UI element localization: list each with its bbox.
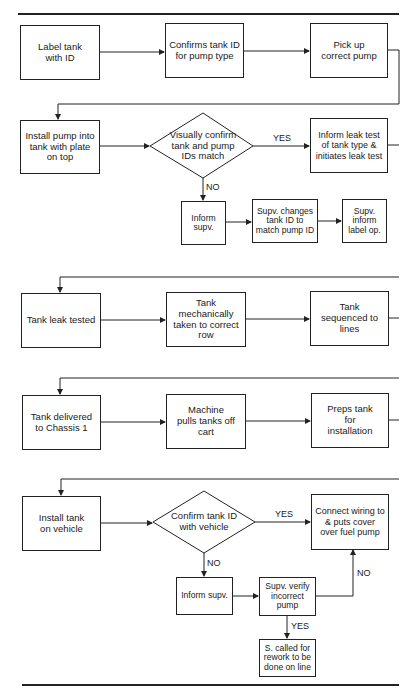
- bottom-rule: [22, 684, 399, 686]
- step-tank-leak-tested: Tank leak tested: [21, 293, 101, 348]
- arrow-verify-no-to-connect: [315, 550, 353, 596]
- label-no-1: NO: [206, 183, 220, 192]
- label-yes-1: YES: [273, 134, 291, 143]
- step-inform-supv-1: Inform supv.: [181, 201, 226, 245]
- step-inform-supv-2: Inform supv.: [176, 577, 233, 615]
- step-supv-inform-label: Supv. inform label op.: [342, 199, 387, 243]
- top-rule: [18, 13, 399, 15]
- step-machine-pulls: Machine pulls tanks off cart: [166, 394, 246, 449]
- step-tank-sequenced: Tank sequenced to lines: [310, 291, 389, 346]
- step-tank-delivered: Tank delivered to Chassis 1: [22, 395, 101, 450]
- step-label-tank: Label tank with ID: [20, 25, 100, 80]
- step-tank-to-row: Tank mechanically taken to correct row: [166, 292, 246, 347]
- arrow-into-leak-tested: [60, 277, 399, 292]
- step-connect-wiring: Connect wiring to & puts cover over fuel…: [311, 494, 389, 550]
- step-pick-up-pump: Pick up correct pump: [310, 23, 388, 78]
- step-install-tank: Install tank on vehicle: [22, 496, 101, 551]
- label-yes-3: YES: [291, 622, 309, 631]
- decision-confirm-vehicle-text: Confirm tank ID with vehicle: [170, 506, 238, 538]
- step-inform-leak-test: Inform leak test of tank type & initiate…: [310, 118, 388, 173]
- step-supv-changes-id: Supv. changes tank ID to match pump ID: [252, 199, 318, 243]
- step-install-pump: Install pump into tank with plate on top: [20, 120, 100, 174]
- step-confirm-tank-id: Confirms tank ID for pump type: [165, 23, 244, 78]
- label-no-3: NO: [357, 569, 371, 578]
- label-no-2: NO: [207, 559, 221, 568]
- label-yes-2: YES: [275, 510, 293, 519]
- step-s-called-rework: S. called for rework to be done on line: [259, 639, 316, 677]
- arrow-into-install-tank: [61, 479, 399, 495]
- decision-ids-match-text: Visually confirm tank and pump IDs match: [168, 126, 238, 166]
- step-preps-tank: Preps tank for installation: [311, 393, 389, 448]
- step-supv-verify: Supv. verify incorrect pump: [259, 577, 316, 616]
- arrow-into-delivered: [60, 378, 399, 394]
